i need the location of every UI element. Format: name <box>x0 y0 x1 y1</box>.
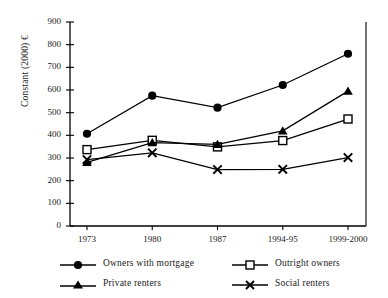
legend-item-outright-owners: Outright owners <box>230 256 340 270</box>
series-line <box>87 54 348 134</box>
data-point-marker <box>148 92 156 100</box>
legend-label-0: Owners with mortgage <box>103 258 194 268</box>
data-point-marker <box>343 87 353 95</box>
legend-marker-x-cross <box>230 277 270 289</box>
series-private-renters <box>82 87 353 166</box>
legend-label-2: Private renters <box>103 278 161 288</box>
series-social-renters <box>83 149 352 174</box>
data-point-marker <box>278 126 288 134</box>
series-line <box>87 91 348 162</box>
legend-marker-filled-circle <box>58 257 98 269</box>
data-series-group <box>82 50 353 174</box>
legend-label-3: Social renters <box>275 278 330 288</box>
series-owners-with-mortgage <box>83 50 352 138</box>
legend-marker-open-square <box>230 257 270 269</box>
axes <box>66 22 366 230</box>
legend-marker-filled-triangle <box>58 277 98 289</box>
series-line <box>87 153 348 170</box>
data-point-marker <box>213 104 221 112</box>
data-point-marker <box>83 130 91 138</box>
plot-area <box>0 0 388 250</box>
data-point-marker <box>279 137 287 145</box>
data-point-marker <box>344 115 352 123</box>
chart-figure: Constant (2000) € 0100200300400500600700… <box>0 0 388 298</box>
data-point-marker <box>344 50 352 58</box>
chart-legend: Owners with mortgage Outright owners Pri… <box>58 254 388 296</box>
legend-item-private-renters: Private renters <box>58 276 161 290</box>
legend-label-1: Outright owners <box>275 258 340 268</box>
legend-item-owners-with-mortgage: Owners with mortgage <box>58 256 194 270</box>
legend-item-social-renters: Social renters <box>230 276 330 290</box>
data-point-marker <box>83 146 91 154</box>
data-point-marker <box>279 81 287 89</box>
